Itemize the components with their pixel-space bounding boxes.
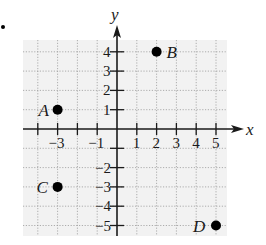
y-axis-label: y bbox=[109, 5, 119, 24]
x-tick-label: 1 bbox=[133, 135, 141, 151]
point-b bbox=[152, 47, 162, 57]
y-tick-label: 3 bbox=[103, 63, 111, 79]
point-label-a: A bbox=[38, 101, 50, 120]
y-tick-label: 2 bbox=[103, 82, 111, 98]
y-tick-label: −2 bbox=[95, 160, 111, 176]
x-tick-label: 4 bbox=[192, 135, 200, 151]
x-tick-label: 5 bbox=[212, 135, 220, 151]
point-label-c: C bbox=[37, 178, 49, 197]
point-label-d: D bbox=[192, 217, 206, 236]
point-d bbox=[211, 221, 221, 231]
y-tick-label: 1 bbox=[103, 102, 111, 118]
point-label-b: B bbox=[167, 43, 178, 62]
x-tick-label: 2 bbox=[153, 135, 161, 151]
point-a bbox=[53, 105, 63, 115]
y-tick-label: −5 bbox=[95, 218, 111, 234]
x-tick-label: 3 bbox=[172, 135, 180, 151]
y-tick-label: −3 bbox=[95, 179, 111, 195]
x-tick-label: −3 bbox=[49, 135, 65, 151]
coordinate-plane: −3−1123454321−2−3−4−5 ABCD x y bbox=[0, 0, 266, 245]
x-axis-label: x bbox=[245, 120, 254, 139]
y-tick-label: −4 bbox=[95, 198, 111, 214]
x-tick-label: −1 bbox=[88, 135, 104, 151]
stray-dot bbox=[1, 25, 5, 29]
y-tick-label: 4 bbox=[103, 44, 111, 60]
point-c bbox=[53, 182, 63, 192]
